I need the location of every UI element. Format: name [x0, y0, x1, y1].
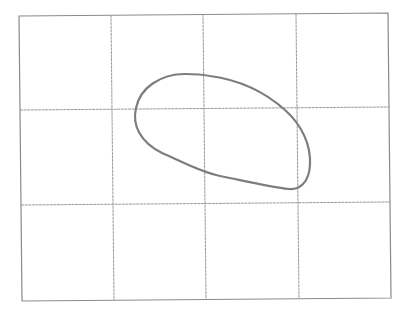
- grid-horizontal-line-2: [21, 202, 390, 205]
- grid-vertical-line-2: [203, 14, 206, 299]
- grid-vertical-line-1: [111, 15, 114, 300]
- grid-vertical-line-3: [296, 14, 299, 299]
- grid: [19, 13, 391, 301]
- closed-curve: [135, 74, 310, 189]
- grid-canvas: [0, 0, 409, 312]
